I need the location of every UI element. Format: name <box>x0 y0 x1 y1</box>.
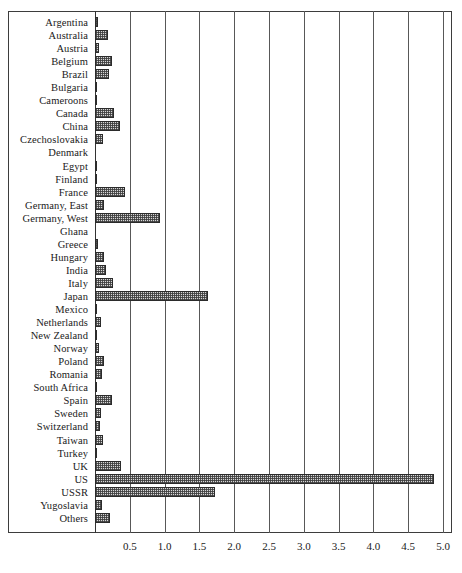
x-tick-label: 2.0 <box>227 540 241 552</box>
x-tick-label: 3.0 <box>297 540 311 552</box>
x-tick-label: 1.5 <box>193 540 207 552</box>
category-label: Czechoslovakia <box>8 133 91 146</box>
bar <box>95 461 121 471</box>
category-label: UK <box>8 460 91 473</box>
bar <box>95 291 208 301</box>
bar <box>95 448 97 458</box>
x-tick-label: 0.5 <box>123 540 137 552</box>
bar-row <box>95 303 443 316</box>
x-tick-label: 3.5 <box>332 540 346 552</box>
bar <box>95 304 97 314</box>
bar <box>95 161 97 171</box>
bar <box>95 408 101 418</box>
bar <box>95 17 98 27</box>
bar <box>95 435 103 445</box>
category-label: Turkey <box>8 447 91 460</box>
bar <box>95 487 215 497</box>
category-label: Finland <box>8 173 91 186</box>
bar-row <box>95 94 443 107</box>
category-label: Hungary <box>8 251 91 264</box>
bar-row <box>95 238 443 251</box>
bar-row <box>95 381 443 394</box>
bar-row <box>95 447 443 460</box>
bar <box>95 278 113 288</box>
category-label: Japan <box>8 290 91 303</box>
bar-row <box>95 81 443 94</box>
category-label: South Africa <box>8 381 91 394</box>
bar <box>95 69 109 79</box>
x-tick-label: 1.0 <box>158 540 172 552</box>
bar-row <box>95 225 443 238</box>
bar-row <box>95 146 443 159</box>
bar-row <box>95 499 443 512</box>
bar <box>95 474 434 484</box>
category-label: Austria <box>8 42 91 55</box>
category-label: Cameroons <box>8 94 91 107</box>
category-label: Poland <box>8 355 91 368</box>
category-label: Sweden <box>8 407 91 420</box>
bar <box>95 382 97 392</box>
bar <box>95 252 104 262</box>
category-label: Italy <box>8 277 91 290</box>
bar-row <box>95 329 443 342</box>
bar-row <box>95 120 443 133</box>
bar <box>95 265 106 275</box>
bar-row <box>95 212 443 225</box>
category-label: Norway <box>8 342 91 355</box>
category-label: Brazil <box>8 68 91 81</box>
bar <box>95 108 114 118</box>
category-label: Romania <box>8 368 91 381</box>
category-label: Switzerland <box>8 420 91 433</box>
bar <box>95 56 112 66</box>
category-label: Australia <box>8 29 91 42</box>
bar-row <box>95 251 443 264</box>
bar <box>95 174 97 184</box>
bar-row <box>95 316 443 329</box>
category-label: US <box>8 473 91 486</box>
bar <box>95 343 99 353</box>
bar-row <box>95 512 443 525</box>
category-label: China <box>8 120 91 133</box>
category-label: Ghana <box>8 225 91 238</box>
bar-row <box>95 473 443 486</box>
bar <box>95 356 104 366</box>
bar <box>95 213 160 223</box>
bar-row <box>95 68 443 81</box>
category-label: New Zealand <box>8 329 91 342</box>
bar <box>95 121 120 131</box>
category-label: Yugoslavia <box>8 499 91 512</box>
bar-row <box>95 342 443 355</box>
bar-row <box>95 160 443 173</box>
bar-row <box>95 277 443 290</box>
bar-row <box>95 368 443 381</box>
bar <box>95 30 108 40</box>
plot-area <box>95 16 443 527</box>
category-label: India <box>8 264 91 277</box>
bar <box>95 395 112 405</box>
x-tick-label: 2.5 <box>262 540 276 552</box>
bar <box>95 200 104 210</box>
x-tick-label: 4.0 <box>367 540 381 552</box>
chart-container: ArgentinaAustraliaAustriaBelgiumBrazilBu… <box>0 0 462 573</box>
bar <box>95 82 97 92</box>
bar-row <box>95 264 443 277</box>
category-label: France <box>8 186 91 199</box>
bar-row <box>95 186 443 199</box>
category-label: Mexico <box>8 303 91 316</box>
bar <box>95 421 100 431</box>
bar <box>95 134 103 144</box>
x-tick-label: 4.5 <box>401 540 415 552</box>
category-label: Greece <box>8 238 91 251</box>
category-label: Taiwan <box>8 434 91 447</box>
category-label: Bulgaria <box>8 81 91 94</box>
bar-row <box>95 394 443 407</box>
bar <box>95 500 102 510</box>
bar-row <box>95 420 443 433</box>
bar-row <box>95 290 443 303</box>
bar-series <box>95 16 443 525</box>
category-label: Germany, West <box>8 212 91 225</box>
bar <box>95 187 125 197</box>
bar <box>95 317 101 327</box>
x-tick-label: 5.0 <box>436 540 450 552</box>
category-label: USSR <box>8 486 91 499</box>
